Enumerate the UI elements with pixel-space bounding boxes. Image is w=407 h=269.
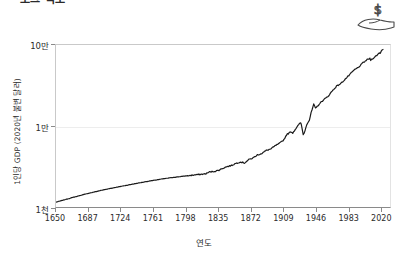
svg-text:$: $: [374, 2, 382, 17]
x-tick-mark-1835: [218, 208, 219, 212]
x-tick-mark-1872: [251, 208, 252, 212]
page-title: 로그 척도: [20, 0, 66, 6]
x-tick-mark-1983: [349, 208, 350, 212]
x-tick-mark-1650: [55, 208, 56, 212]
y-axis-title: 1인당 GDP (2020년 불변 달러): [11, 72, 22, 192]
x-tick-mark-1687: [88, 208, 89, 212]
x-tick-label-2020: 2020: [361, 214, 401, 223]
x-tick-mark-1946: [316, 208, 317, 212]
series-path: [56, 49, 383, 202]
series-line-gdp-per-capita: [56, 45, 390, 207]
x-tick-mark-2020: [381, 208, 382, 212]
chart-figure: 로그 척도 $ 10만 1만 1천 1인당 GDP (2020년 불변 달러) …: [0, 0, 407, 269]
hand-holding-dollar-icon: $: [353, 1, 399, 33]
x-tick-mark-1761: [153, 208, 154, 212]
plot-area: [55, 44, 391, 208]
x-tick-mark-1798: [186, 208, 187, 212]
y-tick-label-100k: 10만: [9, 39, 49, 51]
x-axis-title: 연도: [0, 236, 407, 248]
x-tick-mark-1724: [120, 208, 121, 212]
x-tick-mark-1909: [283, 208, 284, 212]
